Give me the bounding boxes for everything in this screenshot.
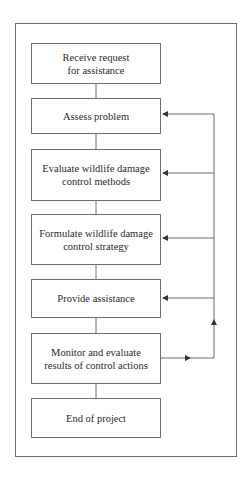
step-text: control methods <box>42 175 149 188</box>
step-receive-request: Receive requestfor assistance <box>31 43 161 84</box>
step-text: Evaluate wildlife damage <box>42 162 149 175</box>
step-provide-assistance: Provide assistance <box>31 279 161 318</box>
step-formulate-strategy: Formulate wildlife damagecontrol strateg… <box>31 214 161 265</box>
arrow-to-evaluate-icon <box>162 170 168 176</box>
arrow-up-icon <box>211 319 217 325</box>
step-end-of-project: End of project <box>31 398 161 438</box>
step-monitor-evaluate: Monitor and evaluateresults of control a… <box>31 333 161 384</box>
arrow-to-assess-icon <box>162 111 168 117</box>
arrow-to-provide-icon <box>162 295 168 301</box>
step-text: Provide assistance <box>57 292 134 305</box>
step-evaluate-methods: Evaluate wildlife damagecontrol methods <box>31 149 161 201</box>
step-text: Formulate wildlife damage <box>39 227 153 240</box>
step-text: Receive request <box>63 51 130 64</box>
arrow-to-formulate-icon <box>162 235 168 241</box>
step-text: for assistance <box>63 64 130 77</box>
arrow-right-icon <box>185 355 191 361</box>
step-text: results of control actions <box>44 359 148 372</box>
step-text: End of project <box>66 412 126 425</box>
step-text: Monitor and evaluate <box>44 346 148 359</box>
step-text: control strategy <box>39 240 153 253</box>
step-text: Assess problem <box>63 110 129 123</box>
step-assess-problem: Assess problem <box>31 98 161 134</box>
